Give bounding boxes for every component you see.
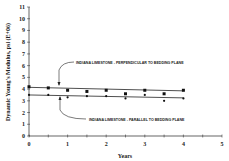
annot-par-arrow: [60, 97, 86, 119]
data-point-dot: [144, 94, 146, 96]
series: [28, 85, 185, 102]
x-tick-label: 1: [66, 141, 69, 147]
x-tick-label: 4: [182, 141, 185, 147]
x-tick-label: 5: [221, 141, 224, 147]
x-axis-title: Years: [118, 153, 133, 159]
data-point-square: [85, 90, 88, 93]
x-tick-label: 3: [143, 141, 146, 147]
data-point-dot: [67, 96, 69, 98]
data-point-square: [28, 85, 31, 88]
y-tick-label: 5: [22, 74, 25, 80]
annot-par-arrowhead: [59, 96, 62, 100]
y-tick-label: 8: [22, 39, 25, 45]
y-tick-label: 10: [19, 16, 25, 22]
x-tick-label: 0: [28, 141, 31, 147]
data-point-dot: [86, 95, 88, 97]
x-tick-label: 2: [105, 141, 108, 147]
data-point-square: [163, 92, 166, 95]
data-point-dot: [163, 100, 165, 102]
y-tick-label: 2: [22, 110, 25, 116]
y-tick-label: 1: [22, 121, 25, 127]
data-point-square: [47, 86, 50, 89]
data-point-square: [66, 89, 69, 92]
data-point-dot: [47, 94, 49, 96]
y-tick-label: 0: [22, 133, 25, 139]
y-tick-label: 7: [22, 51, 25, 57]
annot-perp-arrow: [59, 62, 74, 85]
data-point-square: [143, 89, 146, 92]
y-tick-label: 6: [22, 63, 25, 69]
annotations: INDIANA LIMESTONE - PERPENDICULAR TO BED…: [58, 61, 186, 122]
data-point-square: [182, 89, 185, 92]
y-tick-label: 3: [22, 98, 25, 104]
y-tick-label: 9: [22, 27, 25, 33]
y-tick-label: 4: [22, 86, 25, 92]
data-point-dot: [28, 94, 30, 96]
data-point-square: [105, 89, 108, 92]
y-axis-title: Dynamic Young's Modulus, psi (E+06): [5, 23, 12, 121]
data-point-dot: [105, 95, 107, 97]
chart: 01234501234567891011 INDIANA LIMESTONE -…: [0, 0, 229, 161]
annot-perp-arrowhead: [58, 82, 61, 86]
axes: 01234501234567891011: [19, 4, 224, 147]
annot-perp-text: INDIANA LIMESTONE - PERPENDICULAR TO BED…: [76, 61, 184, 65]
data-point-dot: [124, 97, 126, 99]
data-point-dot: [182, 97, 184, 99]
y-tick-label: 11: [19, 4, 25, 10]
data-point-square: [124, 92, 127, 95]
annot-par-text: INDIANA LIMESTONE - PARALLEL TO BEDDING …: [89, 118, 185, 122]
